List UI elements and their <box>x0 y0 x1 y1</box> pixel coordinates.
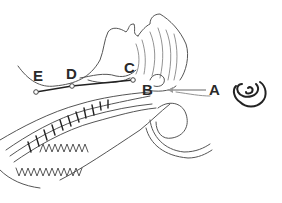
point-d <box>70 84 75 89</box>
label-e: E <box>33 68 43 83</box>
ear-icon <box>230 78 270 110</box>
label-a: A <box>209 82 220 97</box>
label-c: C <box>124 60 135 75</box>
anatomy-diagram: E D C B A <box>0 0 282 203</box>
point-e <box>34 90 39 95</box>
label-d: D <box>66 66 77 81</box>
label-b: B <box>142 82 153 97</box>
point-c <box>131 78 136 83</box>
